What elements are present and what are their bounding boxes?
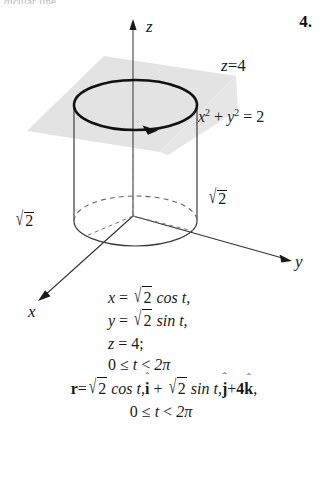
equation-z-param: z = 4; xyxy=(0,333,322,354)
eq-vec-equals: = xyxy=(78,380,87,397)
equation-vector: r=√2 cos t,ˆi + √2 sin t,ˆj+4ˆk, xyxy=(0,377,322,401)
equation-block: x = √2 cos t, y = √2 sin t, z = 4; 0 ≤ t… xyxy=(0,286,322,422)
cylinder-bottom-front-arc xyxy=(74,221,197,246)
equation-y-param: y = √2 sin t, xyxy=(0,309,322,332)
hat-accent: ˆ xyxy=(145,369,149,384)
eq-z-lhs: z xyxy=(108,335,114,352)
eq-x-equals: = xyxy=(119,289,128,306)
domain2-le: ≤ xyxy=(142,403,151,420)
cyl-plus: + xyxy=(214,108,223,125)
hat-accent: ˆ xyxy=(247,370,251,385)
eq-vec-r: r xyxy=(71,380,78,397)
eq-y-equals: = xyxy=(119,312,128,329)
base-radius-dash-left xyxy=(86,216,133,236)
equation-domain-1: 0 ≤ t < 2π xyxy=(0,354,322,375)
radical-sign: √ xyxy=(89,373,96,401)
y-axis-label: y xyxy=(295,253,303,270)
eq-z-rhs: 4; xyxy=(131,335,143,352)
plane-label-z: z xyxy=(221,56,228,75)
radicand-two: 2 xyxy=(24,212,34,229)
eq-z-equals: = xyxy=(118,335,127,352)
x-axis-line xyxy=(44,216,133,296)
eq-vec-plus-1: + xyxy=(153,380,162,397)
domain1-le: ≤ xyxy=(120,356,129,373)
hat-accent: ˆ xyxy=(223,369,227,384)
domain2-lt: < xyxy=(163,403,172,420)
eq-vec-sin: sin t, xyxy=(191,380,222,397)
plane-label-eq: = xyxy=(228,56,238,75)
base-radius-dash-right xyxy=(133,216,193,231)
domain1-twopi: 2π xyxy=(154,356,170,373)
plane-label-value: 4 xyxy=(237,56,246,75)
radicand-two: 2 xyxy=(142,309,152,331)
domain2-twopi: 2π xyxy=(176,403,192,420)
radical-sign: √ xyxy=(134,306,141,332)
radical-sign: √ xyxy=(209,187,216,207)
radicand-two: 2 xyxy=(142,286,152,308)
eq-x-lhs: x xyxy=(108,289,115,306)
cyl-two: 2 xyxy=(256,108,264,125)
eq-y-sin: sin t, xyxy=(156,312,187,329)
radicand-two: 2 xyxy=(97,377,107,400)
radius-label-right: √2 xyxy=(207,190,227,207)
radicand-two: 2 xyxy=(177,377,187,400)
z-axis-arrowhead xyxy=(129,19,136,30)
eq-vec-four: 4 xyxy=(236,380,244,397)
domain1-t: t xyxy=(133,356,137,373)
eq-vec-comma: , xyxy=(253,380,257,397)
radical-sign: √ xyxy=(16,209,23,229)
eq-x-cos: cos t, xyxy=(156,289,190,306)
figure-page: dicular line 4. z xyxy=(0,0,322,486)
plane-label: z=4 xyxy=(221,57,246,74)
cylinder-equation-label: x2 + y2 = 2 xyxy=(198,108,264,125)
radicand-two: 2 xyxy=(217,190,227,207)
y-axis-line xyxy=(133,216,286,259)
unit-vector-j: ˆj xyxy=(222,378,227,400)
eq-vec-cos: cos t, xyxy=(111,380,145,397)
z-axis-label: z xyxy=(146,18,153,35)
domain1-zero: 0 xyxy=(108,356,116,373)
radical-sign: √ xyxy=(169,373,176,401)
equation-x-param: x = √2 cos t, xyxy=(0,286,322,309)
unit-vector-k: ˆk xyxy=(244,378,253,400)
domain2-zero: 0 xyxy=(130,403,138,420)
equation-domain-2: 0 ≤ t < 2π xyxy=(0,401,322,422)
plane-shading xyxy=(27,56,236,152)
unit-vector-i: ˆi xyxy=(145,378,149,400)
cyl-eq: = xyxy=(243,108,252,125)
eq-vec-plus-2: + xyxy=(227,380,236,397)
eq-y-lhs: y xyxy=(108,312,115,329)
y-axis-arrowhead xyxy=(280,255,292,263)
radius-label-left: √2 xyxy=(14,212,34,229)
domain2-t: t xyxy=(155,403,159,420)
